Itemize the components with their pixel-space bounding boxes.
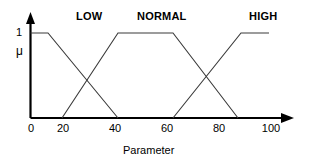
y-axis-title: μ [16, 44, 23, 58]
x-axis-title: Parameter [123, 144, 174, 156]
series-label-low: LOW [76, 10, 102, 22]
x-tick-label-0: 0 [21, 122, 41, 134]
series-label-normal: NORMAL [137, 10, 186, 22]
fuzzy-membership-chart: LOW NORMAL HIGH 1 μ 0 20 40 60 80 100 Pa… [0, 0, 319, 167]
y-tick-label-1: 1 [16, 26, 22, 38]
x-tick-label-100: 100 [258, 122, 284, 134]
x-tick-label-60: 60 [157, 122, 177, 134]
chart-plot-area [0, 0, 319, 167]
x-tick-label-80: 80 [209, 122, 229, 134]
y-axis-arrowhead [26, 12, 35, 24]
x-tick-label-40: 40 [105, 122, 125, 134]
curve-high [173, 33, 269, 118]
x-tick-label-20: 20 [53, 122, 73, 134]
series-label-high: HIGH [249, 10, 277, 22]
curve-low [31, 33, 119, 118]
curve-normal [62, 33, 238, 118]
